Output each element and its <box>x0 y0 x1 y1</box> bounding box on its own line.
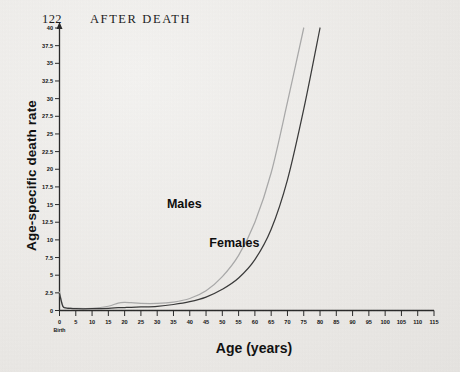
series-annotations-group: MalesFemales <box>167 197 259 250</box>
x-tick-label: 75 <box>301 319 307 325</box>
y-tick-group: 02.557.51012.51517.52022.52527.53032.535… <box>42 25 59 314</box>
y-tick-label: 25 <box>47 131 53 137</box>
x-tick-label: 95 <box>366 319 372 325</box>
x-tick-label: 70 <box>284 319 290 325</box>
x-origin-sublabel: Birth <box>53 327 65 333</box>
y-tick-label: 35 <box>47 60 53 66</box>
series-curve-females <box>60 28 321 309</box>
x-tick-label: 35 <box>170 319 176 325</box>
y-tick-label: 2.5 <box>45 290 53 296</box>
x-tick-label: 5 <box>74 319 77 325</box>
x-axis-title-wrap: Age (years) <box>0 340 460 356</box>
y-tick-label: 30 <box>47 96 53 102</box>
y-tick-label: 10 <box>47 237 53 243</box>
y-tick-label: 22.5 <box>42 149 53 155</box>
y-tick-label: 40 <box>47 25 53 31</box>
x-tick-label: 85 <box>333 319 339 325</box>
x-tick-label: 45 <box>203 319 209 325</box>
x-tick-label: 20 <box>122 319 128 325</box>
book-page: 122 AFTER DEATH Age-specific death rate … <box>0 0 460 372</box>
x-tick-label: 80 <box>317 319 323 325</box>
x-tick-label: 60 <box>252 319 258 325</box>
x-tick-label: 65 <box>268 319 274 325</box>
y-tick-label: 37.5 <box>42 43 53 49</box>
x-axis-title: Age (years) <box>216 340 292 356</box>
y-tick-label: 7.5 <box>45 255 53 261</box>
x-tick-label: 50 <box>219 319 225 325</box>
y-tick-label: 27.5 <box>42 113 53 119</box>
x-tick-label: 110 <box>413 319 422 325</box>
series-curves-group <box>60 28 321 309</box>
x-tick-label: 15 <box>105 319 111 325</box>
x-tick-label: 10 <box>89 319 95 325</box>
axes-group <box>57 22 435 311</box>
x-tick-label: 25 <box>138 319 144 325</box>
x-tick-label: 0 <box>58 319 61 325</box>
y-tick-label: 15 <box>47 202 53 208</box>
x-tick-label: 55 <box>235 319 241 325</box>
x-tick-label: 40 <box>187 319 193 325</box>
x-tick-label: 100 <box>380 319 389 325</box>
y-tick-label: 20 <box>47 166 53 172</box>
y-tick-label: 17.5 <box>42 184 53 190</box>
series-label-females: Females <box>209 236 259 250</box>
y-tick-label: 0 <box>50 308 53 314</box>
series-label-males: Males <box>167 197 202 211</box>
y-tick-label: 12.5 <box>42 219 53 225</box>
x-tick-label: 90 <box>349 319 355 325</box>
x-tick-label: 105 <box>397 319 406 325</box>
figure-age-specific-death-rate: Age-specific death rate 0510152025303540… <box>0 0 460 372</box>
chart-plot-area: 0510152025303540455055606570758085909510… <box>0 0 460 372</box>
y-tick-label: 32.5 <box>42 78 53 84</box>
x-tick-label: 115 <box>429 319 438 325</box>
x-tick-group: 0510152025303540455055606570758085909510… <box>53 311 438 333</box>
x-tick-label: 30 <box>154 319 160 325</box>
y-tick-label: 5 <box>50 272 53 278</box>
series-curve-males <box>60 28 304 309</box>
